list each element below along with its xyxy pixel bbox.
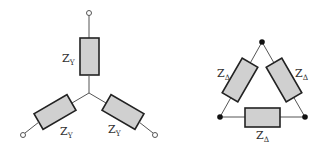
wye-delta-diagram: ZY ZY ZY: [0, 0, 323, 159]
wye-left-wire-outer: [25, 122, 39, 133]
wye-left-wire-inner: [72, 93, 89, 103]
delta-right-impedance: [266, 58, 302, 102]
wye-top-impedance: [80, 38, 99, 75]
wye-left-impedance: [34, 95, 76, 130]
delta-bottom-label: ZΔ: [256, 129, 270, 144]
delta-left-node: [217, 114, 223, 120]
delta-right-node: [302, 114, 308, 120]
wye-top-terminal: [87, 11, 92, 16]
wye-right-wire-outer: [139, 122, 153, 133]
delta-left-label: ZΔ: [217, 67, 231, 82]
delta-bottom-impedance: [245, 108, 280, 127]
wye-left-label: ZY: [60, 125, 74, 140]
wye-top-label: ZY: [62, 52, 76, 67]
delta-top-node: [259, 39, 265, 45]
wye-right-wire-inner: [89, 93, 106, 103]
delta-network: ZΔ ZΔ ZΔ: [217, 39, 309, 144]
delta-right-label: ZΔ: [295, 67, 309, 82]
wye-left-terminal: [21, 133, 26, 138]
wye-right-terminal: [153, 133, 158, 138]
wye-network: ZY ZY ZY: [21, 11, 158, 141]
wye-right-label: ZY: [108, 123, 122, 138]
